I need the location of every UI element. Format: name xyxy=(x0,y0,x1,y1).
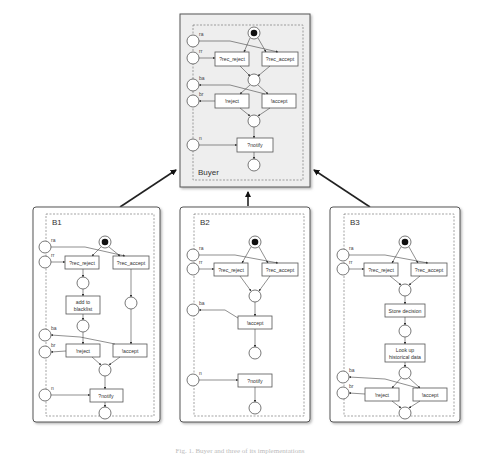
buyer-place-sent xyxy=(248,115,260,127)
b1-blacklist-label-2: blacklist xyxy=(74,306,93,312)
buyer-net: Buyer ra rr ba br n ?rec_reject ?rec_acc… xyxy=(180,14,310,187)
buyer-token xyxy=(251,30,258,37)
b2-port-rr xyxy=(187,263,199,275)
buyer-rec-reject-label: ?rec_reject xyxy=(219,56,245,62)
buyer-port-ba xyxy=(187,79,199,91)
buyer-port-ra xyxy=(187,35,199,47)
b1-port-label: n xyxy=(51,385,54,391)
b3-reject-label: !reject xyxy=(375,392,390,398)
b3-port-rr xyxy=(337,263,349,275)
diagram-canvas: Buyer ra rr ba br n ?rec_reject ?rec_acc… xyxy=(0,0,480,457)
b1-reject-label: !reject xyxy=(76,348,91,354)
b3-rec-reject-label: ?rec_reject xyxy=(368,267,394,273)
b2-notify-label: ?notify xyxy=(247,378,263,384)
b3-store-label: Store decision xyxy=(389,308,422,314)
buyer-accept-label: !accept xyxy=(271,98,288,104)
b2-port-label: ba xyxy=(199,300,205,306)
buyer-reject-label: !reject xyxy=(225,98,240,104)
b3-net: B3 ra rr ba br ?rec_reject ?rec_accept S… xyxy=(330,207,460,422)
b1-token xyxy=(102,239,109,246)
buyer-title: Buyer xyxy=(198,168,219,177)
b3-title: B3 xyxy=(350,218,360,227)
b2-net: B2 ra rr ba n ?rec_reject ?rec_accept !a… xyxy=(180,207,310,422)
b3-port-label: br xyxy=(349,383,354,389)
b2-port-label: rr xyxy=(199,259,203,265)
buyer-port-rr xyxy=(187,52,199,64)
b3-rec-accept-label: ?rec_accept xyxy=(415,267,444,273)
buyer-notify-label: ?notify xyxy=(247,142,263,148)
b1-port-ra xyxy=(39,241,51,253)
buyer-port-ba-label: ba xyxy=(199,75,205,81)
b3-lookup-label-2: historical data xyxy=(389,354,421,360)
arrow-b3-to-buyer xyxy=(314,170,370,207)
b1-net: B1 ra rr ba br n ?rec_reject ?rec_accept… xyxy=(33,207,160,422)
b1-blacklist-label-1: add to xyxy=(76,299,91,305)
b1-port-label: rr xyxy=(51,252,55,258)
b2-port-label: ra xyxy=(199,245,204,251)
b1-port-ba xyxy=(39,329,51,341)
b3-place xyxy=(399,367,411,379)
b3-port-ra xyxy=(337,249,349,261)
b3-place-final xyxy=(399,407,411,419)
b1-port-rr xyxy=(39,256,51,268)
b3-token xyxy=(402,239,409,246)
b2-box xyxy=(180,207,310,422)
b1-port-label: br xyxy=(51,342,56,348)
b2-port-label: n xyxy=(199,370,202,376)
buyer-port-br-label: br xyxy=(199,91,204,97)
b2-token xyxy=(252,239,259,246)
b3-lookup-label-1: Look up xyxy=(396,347,415,353)
b1-port-n xyxy=(39,389,51,401)
b2-port-n xyxy=(187,374,199,386)
b1-place xyxy=(125,297,137,309)
b1-accept-label: !accept xyxy=(122,348,139,354)
b2-rec-accept-label: ?rec_accept xyxy=(266,267,295,273)
b2-place xyxy=(249,290,261,302)
b3-port-br xyxy=(337,387,349,399)
b3-accept-label: !accept xyxy=(422,392,439,398)
b2-port-ra xyxy=(187,249,199,261)
b1-notify-label: ?notify xyxy=(98,393,114,399)
figure-caption: Fig. 1. Buyer and three of its implement… xyxy=(176,447,305,455)
b3-place xyxy=(399,284,411,296)
b1-rec-reject-label: ?rec_reject xyxy=(69,260,95,266)
b2-place-final xyxy=(249,402,261,414)
b2-port-ba xyxy=(187,304,199,316)
b1-port-label: ba xyxy=(51,325,57,331)
buyer-port-n-label: n xyxy=(199,135,202,141)
b1-port-label: ra xyxy=(51,237,56,243)
b2-place xyxy=(249,347,261,359)
arrow-b1-to-buyer xyxy=(120,170,176,207)
buyer-port-n xyxy=(187,139,199,151)
b3-port-label: ra xyxy=(349,245,354,251)
buyer-port-br xyxy=(187,95,199,107)
b3-place xyxy=(399,325,411,337)
b3-port-label: ba xyxy=(349,367,355,373)
buyer-port-ra-label: ra xyxy=(199,31,204,37)
buyer-rec-accept-label: ?rec_accept xyxy=(266,56,295,62)
b1-place xyxy=(77,277,89,289)
buyer-place-final xyxy=(248,159,260,171)
b3-port-ba xyxy=(337,371,349,383)
b3-port-label: rr xyxy=(349,259,353,265)
buyer-port-rr-label: rr xyxy=(199,48,203,54)
b2-rec-reject-label: ?rec_reject xyxy=(218,267,244,273)
b2-accept-label: !accept xyxy=(247,320,264,326)
b1-place xyxy=(99,364,111,376)
b1-title: B1 xyxy=(52,218,62,227)
b1-place-final xyxy=(99,407,111,419)
b1-place xyxy=(77,320,89,332)
b1-port-br xyxy=(39,346,51,358)
b1-rec-accept-label: ?rec_accept xyxy=(117,260,146,266)
b2-title: B2 xyxy=(200,218,210,227)
